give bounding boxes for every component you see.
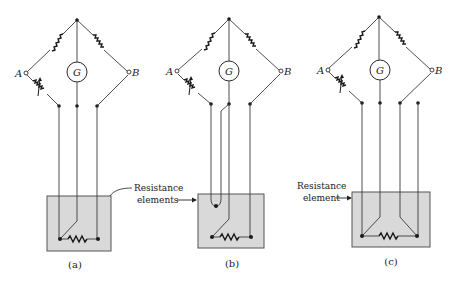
resistor-icon (395, 32, 406, 44)
resistor-icon (204, 33, 215, 50)
terminal-b-label: B (131, 67, 139, 78)
caption-a: (a) (68, 259, 82, 270)
callout-text-line2: element (303, 193, 340, 203)
terminal-b (127, 70, 131, 74)
resistor-icon (93, 35, 104, 47)
callout-resistance-elements: Resistance elements (110, 183, 196, 205)
bridge-diagram-figure: G A B (a) Resistance elements (0, 0, 458, 285)
galvanometer-label: G (225, 66, 233, 77)
galvanometer-label: G (73, 67, 81, 78)
callout-text-line1: Resistance (134, 183, 183, 193)
diagram-c: G A B (c) (316, 15, 442, 267)
galvanometer-label: G (376, 65, 384, 76)
terminal-b (430, 68, 434, 72)
terminal-a (24, 71, 28, 75)
caption-c: (c) (384, 256, 398, 267)
terminal-a-label: A (165, 66, 173, 77)
callout-text-line2: elements (137, 195, 179, 205)
resistor-icon (52, 34, 63, 51)
terminal-a-label: A (14, 68, 22, 79)
terminal-a (326, 68, 330, 72)
terminal-b-label: B (434, 65, 442, 76)
resistor-icon (354, 31, 365, 48)
terminal-b (279, 69, 283, 73)
callout-text-line1: Resistance (297, 181, 346, 191)
diagram-a: G A B (a) (14, 18, 139, 270)
diagram-b: G A B (b) (165, 17, 291, 269)
caption-b: (b) (225, 258, 239, 269)
terminal-a (175, 69, 179, 73)
terminal-a-label: A (316, 65, 324, 76)
resistor-icon (245, 34, 256, 46)
terminal-b-label: B (283, 66, 291, 77)
callout-resistance-element: Resistance element (297, 181, 351, 203)
